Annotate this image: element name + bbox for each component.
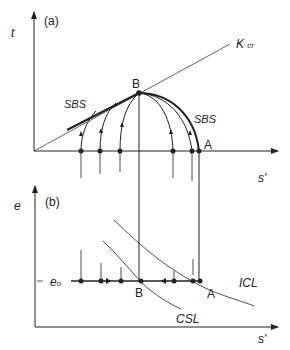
path-arrows-a: [79, 122, 192, 136]
stress-path-2: [100, 103, 116, 151]
point-a-label-b: A: [207, 288, 215, 300]
panel-b: [35, 186, 278, 327]
point-a-label-a: A: [204, 139, 212, 151]
panel-b-tag: (b): [45, 196, 60, 208]
stress-path-diagram: [0, 0, 290, 350]
sbs-right-label: SBS: [194, 114, 216, 125]
e-axis-label: e: [14, 200, 21, 212]
stress-path-5: [139, 93, 173, 151]
sbs-left-label: SBS: [64, 99, 86, 110]
point-b-label-a: B: [132, 78, 140, 90]
csl-label: CSL: [176, 313, 199, 325]
panel-a-tag: (a): [44, 15, 59, 27]
e0-label: eo: [50, 276, 61, 288]
t-axis-label: t: [11, 27, 14, 39]
sbs-right-curve: [139, 93, 199, 151]
stress-path-6: [139, 93, 192, 151]
kcr-label: K cr: [236, 38, 254, 50]
icl-label: ICL: [239, 277, 258, 289]
point-b-label-b: B: [135, 287, 143, 299]
s-prime-label-a: s': [258, 172, 266, 184]
s-prime-label-b: s': [258, 333, 266, 345]
panel-a: [34, 12, 278, 281]
